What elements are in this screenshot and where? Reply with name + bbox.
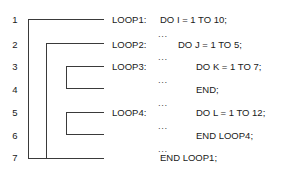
line-number-2: 2 <box>8 40 22 50</box>
code-line-end: END; <box>196 85 219 95</box>
ellipsis-marker-2: ... <box>158 54 168 60</box>
line-number-1: 1 <box>8 15 22 25</box>
ellipsis-marker-4: ... <box>158 100 168 106</box>
bracket-loop3-scope <box>66 66 104 89</box>
code-line-do-l: DO L = 1 TO 12; <box>196 108 265 118</box>
code-line-end-loop1: END LOOP1; <box>160 153 217 163</box>
line-number-5: 5 <box>8 108 22 118</box>
code-line-do-i: DO I = 1 TO 10; <box>160 15 227 25</box>
loop-label-loop3: LOOP3: <box>112 62 146 72</box>
line-number-6: 6 <box>8 131 22 141</box>
bracket-loop2-scope <box>46 43 104 159</box>
line-number-4: 4 <box>8 85 22 95</box>
nested-loop-scope-diagram: 1 2 3 4 5 6 7 LOOP1: LOOP2: LOOP3: LOOP4… <box>0 0 289 179</box>
ellipsis-marker-3: ... <box>158 77 168 83</box>
code-line-end-loop4: END LOOP4; <box>196 131 253 141</box>
loop-label-loop2: LOOP2: <box>112 40 146 50</box>
ellipsis-marker-5: ... <box>158 123 168 129</box>
code-line-do-j: DO J = 1 TO 5; <box>178 40 242 50</box>
code-line-do-k: DO K = 1 TO 7; <box>196 62 261 72</box>
line-number-3: 3 <box>8 62 22 72</box>
ellipsis-marker-1: ... <box>158 31 168 37</box>
loop-label-loop4: LOOP4: <box>112 108 146 118</box>
line-number-7: 7 <box>8 153 22 163</box>
bracket-loop4-scope <box>66 112 104 135</box>
loop-label-loop1: LOOP1: <box>112 15 146 25</box>
